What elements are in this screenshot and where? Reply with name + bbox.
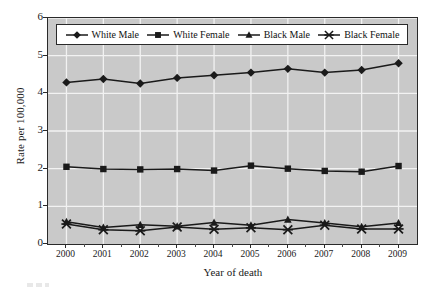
x-tick-mark: [324, 244, 325, 248]
x-tick-mark: [287, 244, 288, 248]
point-white-male-2008: [357, 66, 365, 74]
x-tick-mark: [65, 244, 66, 248]
point-white-female-2003: [174, 166, 180, 172]
x-minor-tick-mark: [84, 244, 85, 247]
x-minor-tick-mark: [379, 244, 380, 247]
x-tick-mark: [361, 244, 362, 248]
legend-label-black-female: Black Female: [344, 29, 399, 40]
data-point-square: [155, 32, 161, 38]
series-line-black-male: [66, 220, 398, 228]
x-tick-mark: [213, 244, 214, 248]
x-tick-label-2005: 2005: [230, 249, 270, 259]
legend-item-white-male[interactable]: White Male: [65, 29, 139, 41]
point-white-male-2001: [99, 75, 107, 83]
x-tick-label-2004: 2004: [193, 249, 233, 259]
x-tick-mark: [176, 244, 177, 248]
y-tick-label-1: 1: [21, 199, 43, 210]
legend-label-white-female: White Female: [173, 29, 229, 40]
x-minor-tick-mark: [121, 244, 122, 247]
point-white-female-2001: [100, 166, 106, 172]
x-tick-mark: [398, 244, 399, 248]
x-minor-tick-mark: [195, 244, 196, 247]
series-line-white-male: [66, 63, 398, 83]
point-white-male-2003: [173, 74, 181, 82]
x-tick-label-2001: 2001: [82, 249, 122, 259]
plot-canvas: [48, 18, 417, 244]
point-white-female-2002: [137, 166, 143, 172]
legend-marker-square-icon: [146, 29, 170, 41]
point-white-female-2009: [395, 163, 401, 169]
y-tick-label-4: 4: [21, 86, 43, 97]
x-tick-label-2009: 2009: [378, 249, 418, 259]
point-white-male-2006: [284, 65, 292, 73]
x-axis-title: Year of death: [44, 266, 422, 278]
x-minor-tick-mark: [232, 244, 233, 247]
y-tick-label-2: 2: [21, 162, 43, 173]
legend-label-white-male: White Male: [92, 29, 139, 40]
point-white-male-2000: [62, 78, 70, 86]
x-tick-label-2007: 2007: [304, 249, 344, 259]
x-minor-tick-mark: [158, 244, 159, 247]
x-minor-tick-mark: [342, 244, 343, 247]
y-tick-label-5: 5: [21, 49, 43, 60]
x-tick-mark: [102, 244, 103, 248]
data-point-diamond: [73, 31, 81, 39]
point-white-female-2004: [211, 167, 217, 173]
x-tick-label-2008: 2008: [341, 249, 381, 259]
x-tick-mark: [250, 244, 251, 248]
y-tick-label-0: 0: [21, 237, 43, 248]
legend-marker-diamond-icon: [65, 29, 89, 41]
point-white-male-2002: [136, 79, 144, 87]
x-tick-label-2002: 2002: [119, 249, 159, 259]
legend-item-black-female[interactable]: Black Female: [317, 29, 399, 41]
point-white-male-2007: [321, 68, 329, 76]
x-tick-label-2003: 2003: [156, 249, 196, 259]
point-white-female-2008: [358, 168, 364, 174]
x-tick-label-2000: 2000: [45, 249, 85, 259]
legend-marker-triangle-icon: [237, 29, 261, 41]
legend-item-black-male[interactable]: Black Male: [237, 29, 310, 41]
point-white-female-2005: [248, 162, 254, 168]
x-tick-label-2006: 2006: [267, 249, 307, 259]
point-white-male-2009: [394, 59, 402, 67]
y-tick-label-6: 6: [21, 11, 43, 22]
point-white-female-2006: [285, 165, 291, 171]
legend-marker-x-icon: [317, 29, 341, 41]
plot-area: [47, 17, 418, 245]
page-artifact: [27, 283, 49, 287]
point-white-male-2004: [210, 71, 218, 79]
x-minor-tick-mark: [268, 244, 269, 247]
chart-legend: White MaleWhite FemaleBlack MaleBlack Fe…: [56, 24, 408, 45]
legend-item-white-female[interactable]: White Female: [146, 29, 229, 41]
point-white-female-2007: [322, 168, 328, 174]
data-point-x: [325, 30, 334, 38]
line-chart-figure: Rate per 100,000 0123456 200020012002200…: [0, 0, 426, 295]
point-white-male-2005: [247, 68, 255, 76]
x-minor-tick-mark: [305, 244, 306, 247]
y-tick-label-3: 3: [21, 124, 43, 135]
x-tick-mark: [139, 244, 140, 248]
legend-label-black-male: Black Male: [264, 29, 310, 40]
point-white-female-2000: [63, 164, 69, 170]
